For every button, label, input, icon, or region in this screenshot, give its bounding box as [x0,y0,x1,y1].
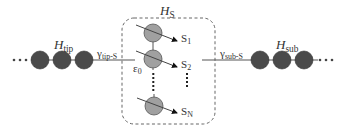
tip-coupling-label: γtip-S [97,48,117,61]
system-site-icon [144,50,162,68]
state-label-n: SN [181,106,193,119]
system-site-icon [144,24,162,42]
right-ellipsis-icon [319,59,334,62]
left-ellipsis-icon [13,59,28,62]
transport-diagram: Htip γtip-S HS ε0 S1 S2 SN γsub-S Hsub [0,0,348,134]
tip-hamiltonian-label: Htip [54,38,73,54]
substrate-coupling-label: γsub-S [220,48,243,61]
state-label-1: S1 [181,33,191,46]
lead-site-icon [31,51,49,69]
substrate-hamiltonian-label: Hsub [276,38,298,54]
onsite-energy-label: ε0 [133,63,142,76]
state-label-2: S2 [181,59,191,72]
system-vertical-ellipsis-icon [152,73,154,91]
system-hamiltonian-label: HS [160,4,175,20]
lead-site-icon [75,51,93,69]
states-vertical-ellipsis-icon [186,73,188,87]
lead-site-icon [251,51,269,69]
system-site-icon [145,97,163,115]
